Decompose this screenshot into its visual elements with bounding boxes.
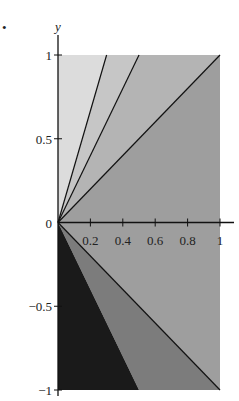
x-tick-label: 0.8 — [179, 233, 195, 248]
y-tick-label: 1 — [46, 48, 53, 63]
y-axis-label: y — [53, 19, 61, 34]
y-tick-label: −0.5 — [28, 299, 52, 314]
y-tick-label: −1 — [38, 383, 52, 398]
x-tick-label: 0.2 — [82, 233, 98, 248]
x-tick-label: 0.6 — [147, 233, 164, 248]
y-tick-label: 0.5 — [36, 132, 52, 147]
chart: 0.20.40.60.8110.50−0.5−1y• — [0, 0, 239, 401]
figure-marker: • — [2, 20, 7, 35]
x-tick-label: 1 — [217, 233, 224, 248]
x-tick-label: 0.4 — [115, 233, 132, 248]
y-tick-label: 0 — [46, 216, 53, 231]
